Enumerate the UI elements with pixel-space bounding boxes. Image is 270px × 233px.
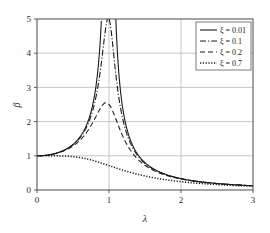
- legend-label: ξ = 0.2: [220, 48, 242, 57]
- x-axis-title: λ: [142, 213, 148, 224]
- x-tick-label: 0: [35, 195, 40, 205]
- x-tick-label: 1: [107, 195, 112, 205]
- y-tick-label: 2: [27, 117, 32, 127]
- legend-label: ξ = 0.01: [220, 26, 246, 35]
- legend-label: ξ = 0.7: [220, 59, 242, 68]
- y-tick-label: 5: [27, 14, 32, 24]
- legend: ξ = 0.01ξ = 0.1ξ = 0.2ξ = 0.7: [196, 22, 251, 70]
- x-tick-label: 3: [251, 195, 256, 205]
- y-axis-title: β: [11, 102, 22, 108]
- legend-label: ξ = 0.1: [220, 37, 242, 46]
- y-tick-label: 3: [27, 83, 32, 93]
- y-tick-label: 1: [27, 151, 32, 161]
- y-tick-label: 4: [27, 48, 32, 58]
- y-tick-label: 0: [27, 185, 32, 195]
- x-tick-label: 2: [179, 195, 184, 205]
- figure-container: 0123 012345 λ β ξ = 0.01ξ = 0.1ξ = 0.2ξ …: [0, 0, 270, 233]
- frequency-response-chart: 0123 012345 λ β ξ = 0.01ξ = 0.1ξ = 0.2ξ …: [0, 0, 270, 233]
